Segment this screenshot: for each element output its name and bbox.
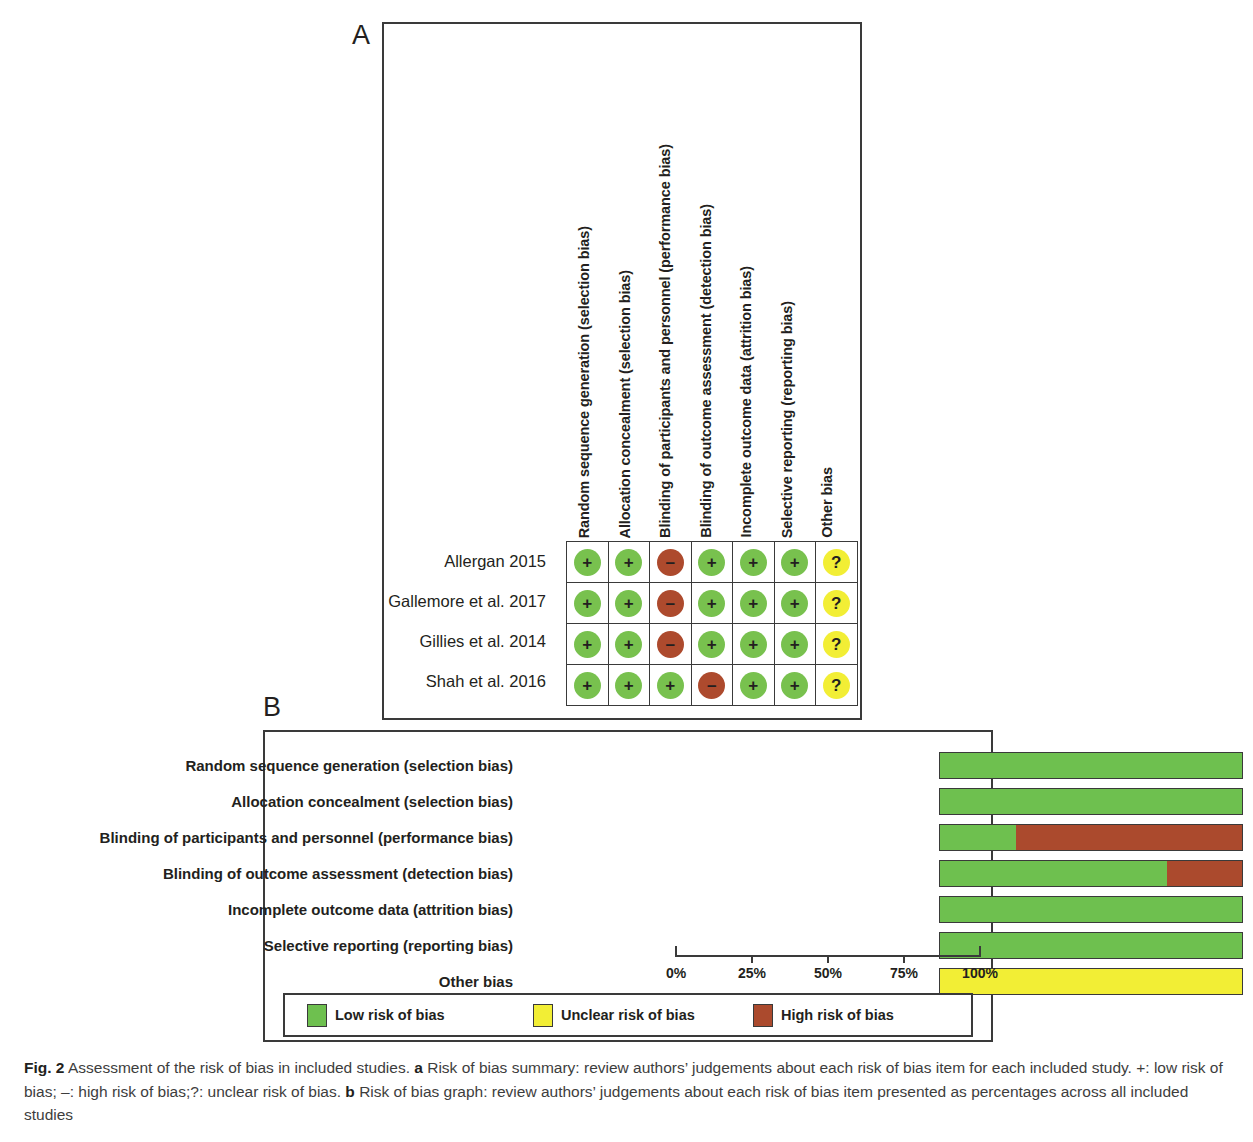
matrix-cell: + <box>567 542 609 583</box>
figure-root: A Random sequence generation (selection … <box>0 0 1253 1142</box>
matrix-row: ++–+++? <box>567 583 858 624</box>
judgement-low-icon: + <box>698 549 725 576</box>
matrix-cell: + <box>733 665 775 706</box>
matrix-cell: ? <box>816 665 858 706</box>
caption-figure-number: Fig. 2 <box>24 1059 64 1076</box>
judgement-unclear-icon: ? <box>823 590 850 617</box>
judgement-low-icon: + <box>615 590 642 617</box>
graph-row: Blinding of outcome assessment (detectio… <box>263 860 1243 887</box>
matrix-cell: + <box>691 624 733 665</box>
graph-row-label: Random sequence generation (selection bi… <box>185 752 513 779</box>
legend-swatch-low <box>307 1004 327 1027</box>
stacked-bar <box>939 824 1243 851</box>
judgement-low-icon: + <box>574 631 601 658</box>
graph-row: Incomplete outcome data (attrition bias) <box>263 896 1243 923</box>
matrix-column-header: Incomplete outcome data (attrition bias) <box>739 266 754 538</box>
study-label: Allergan 2015 <box>250 541 558 581</box>
stacked-bar <box>939 932 1243 959</box>
graph-row-label: Blinding of participants and personnel (… <box>100 824 513 851</box>
legend-item: Low risk of bias <box>307 1004 445 1027</box>
judgement-low-icon: + <box>698 631 725 658</box>
judgement-high-icon: – <box>657 631 684 658</box>
matrix-column-header: Other bias <box>820 467 835 538</box>
judgement-low-icon: + <box>615 549 642 576</box>
stacked-bar <box>939 752 1243 779</box>
caption-part-b-marker: b <box>345 1083 354 1100</box>
legend-swatch-unclear <box>533 1004 553 1027</box>
study-label: Gillies et al. 2014 <box>250 621 558 661</box>
judgement-low-icon: + <box>574 672 601 699</box>
judgement-high-icon: – <box>657 549 684 576</box>
matrix-cell: + <box>608 583 650 624</box>
matrix-cell: + <box>691 583 733 624</box>
legend-label: Unclear risk of bias <box>561 1007 695 1023</box>
graph-row-label: Selective reporting (reporting bias) <box>264 932 513 959</box>
matrix-cell: – <box>650 583 692 624</box>
matrix-row: ++–+++? <box>567 624 858 665</box>
matrix-cell: ? <box>816 542 858 583</box>
judgement-low-icon: + <box>574 590 601 617</box>
graph-row-label: Incomplete outcome data (attrition bias) <box>228 896 513 923</box>
figure-caption: Fig. 2 Assessment of the risk of bias in… <box>24 1056 1234 1127</box>
matrix-cell: + <box>567 624 609 665</box>
bar-segment-high <box>1016 825 1243 850</box>
judgement-low-icon: + <box>781 549 808 576</box>
judgement-low-icon: + <box>781 631 808 658</box>
matrix-row: ++–+++? <box>567 542 858 583</box>
judgement-low-icon: + <box>740 590 767 617</box>
judgement-low-icon: + <box>781 590 808 617</box>
bar-segment-high <box>1167 861 1243 886</box>
matrix-cell: – <box>650 542 692 583</box>
matrix-cell: + <box>567 665 609 706</box>
axis-tick-label: 100% <box>962 965 998 981</box>
matrix-column-header: Blinding of outcome assessment (detectio… <box>699 204 714 538</box>
matrix-cell: – <box>691 665 733 706</box>
judgement-low-icon: + <box>781 672 808 699</box>
matrix-cell: + <box>608 624 650 665</box>
matrix-column-headers: Random sequence generation (selection bi… <box>566 60 864 538</box>
bar-segment-low <box>940 789 1242 814</box>
axis-tick <box>827 955 829 963</box>
judgement-low-icon: + <box>740 549 767 576</box>
matrix-cell: + <box>774 583 816 624</box>
stacked-bar <box>939 788 1243 815</box>
graph-row-label: Other bias <box>439 968 513 995</box>
matrix-cell: + <box>774 665 816 706</box>
judgement-low-icon: + <box>740 672 767 699</box>
axis-tick-label: 75% <box>890 965 918 981</box>
axis-tick <box>751 955 753 963</box>
graph-row: Random sequence generation (selection bi… <box>263 752 1243 779</box>
axis-tick-label: 0% <box>666 965 686 981</box>
matrix-cell: – <box>650 624 692 665</box>
caption-part-a-marker: a <box>414 1059 423 1076</box>
matrix-column-header: Random sequence generation (selection bi… <box>577 226 592 538</box>
matrix-cell: ? <box>816 624 858 665</box>
stacked-bar <box>939 860 1243 887</box>
bar-segment-low <box>940 753 1242 778</box>
legend-item: Unclear risk of bias <box>533 1004 695 1027</box>
percentage-axis: 0%25%50%75%100% <box>676 955 980 985</box>
panel-a-letter: A <box>352 22 370 49</box>
matrix-cell: + <box>691 542 733 583</box>
graph-row-label: Allocation concealment (selection bias) <box>231 788 513 815</box>
bar-segment-low <box>940 933 1242 958</box>
bar-segment-low <box>940 825 1016 850</box>
matrix-cell: + <box>774 542 816 583</box>
judgement-low-icon: + <box>574 549 601 576</box>
matrix-cell: + <box>733 624 775 665</box>
legend-item: High risk of bias <box>753 1004 894 1027</box>
matrix-grid: ++–+++?++–+++?++–+++?+++–++? <box>566 541 858 706</box>
matrix-cell: + <box>733 542 775 583</box>
judgement-high-icon: – <box>657 590 684 617</box>
judgement-low-icon: + <box>698 590 725 617</box>
graph-row-label: Blinding of outcome assessment (detectio… <box>163 860 513 887</box>
matrix-cell: + <box>608 542 650 583</box>
stacked-bar <box>939 896 1243 923</box>
matrix-cell: + <box>608 665 650 706</box>
judgement-low-icon: + <box>740 631 767 658</box>
judgement-unclear-icon: ? <box>823 631 850 658</box>
matrix-cell: + <box>567 583 609 624</box>
legend-swatch-high <box>753 1004 773 1027</box>
axis-tick <box>979 946 981 957</box>
legend-label: Low risk of bias <box>335 1007 445 1023</box>
